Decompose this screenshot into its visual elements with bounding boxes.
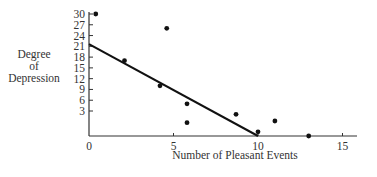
data-point [306, 134, 311, 139]
data-point [185, 101, 190, 106]
x-tick-label: 0 [86, 140, 92, 152]
data-points [93, 12, 311, 139]
data-point [185, 120, 190, 125]
data-point [164, 26, 169, 31]
data-point [122, 58, 127, 63]
y-axis-label-line: Depression [0, 72, 68, 84]
regression-line [89, 44, 258, 136]
x-tick-label: 15 [337, 140, 349, 152]
y-axis: 30272421181512963 [74, 8, 94, 136]
data-point [234, 112, 239, 117]
data-point [93, 12, 98, 17]
y-axis-label-line: of [0, 60, 68, 72]
y-axis-label-line: Degree [0, 48, 68, 60]
y-tick-label: 3 [79, 105, 85, 117]
regression-line-segment [89, 44, 258, 136]
data-point [256, 129, 261, 134]
x-axis-label: Number of Pleasant Events [150, 149, 320, 161]
data-point [273, 119, 278, 124]
y-axis-label: Degree of Depression [0, 48, 68, 84]
data-point [158, 83, 163, 88]
